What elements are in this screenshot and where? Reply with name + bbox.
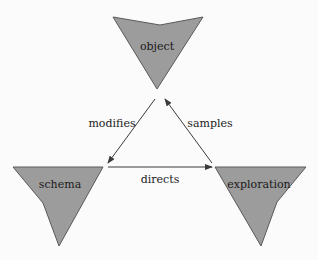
edge-directs-label: directs xyxy=(141,173,180,186)
diagram-canvas: object schema exploration modifies sampl… xyxy=(0,0,318,260)
node-schema: schema xyxy=(13,167,103,246)
node-exploration-label: exploration xyxy=(227,178,290,191)
node-exploration: exploration xyxy=(215,167,306,246)
node-object: object xyxy=(113,17,203,89)
edge-directs: directs xyxy=(108,167,212,186)
node-object-label: object xyxy=(140,40,175,53)
edge-modifies-label: modifies xyxy=(88,117,135,130)
edge-samples-label: samples xyxy=(187,117,233,130)
node-schema-label: schema xyxy=(39,178,82,191)
edge-modifies: modifies xyxy=(88,99,155,163)
cycle-diagram: object schema exploration modifies sampl… xyxy=(0,0,318,260)
edge-samples: samples xyxy=(165,99,233,163)
